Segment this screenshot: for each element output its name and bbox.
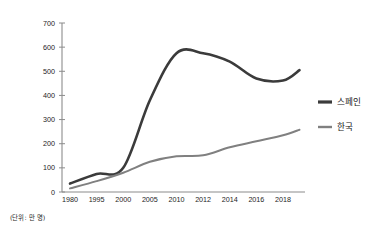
x-tick-label: 2012 <box>195 195 211 204</box>
x-tick-label: 1980 <box>62 195 78 204</box>
y-tick-label: 500 <box>43 67 55 76</box>
y-tick-label: 700 <box>43 19 55 28</box>
x-tick-label: 1995 <box>89 195 105 204</box>
y-tick-label: 600 <box>43 43 55 52</box>
x-axis: 198019952000200520102012201420162018 <box>62 192 305 204</box>
legend-label-korea: 한국 <box>337 122 353 132</box>
chart-container: 0100200300400500600700 19801995200020052… <box>0 0 385 234</box>
line-chart: 0100200300400500600700 19801995200020052… <box>0 0 385 234</box>
x-tick-label: 2005 <box>142 195 158 204</box>
x-tick-label: 2000 <box>115 195 131 204</box>
x-tick-label: 2018 <box>275 195 291 204</box>
y-tick-label: 100 <box>43 163 55 172</box>
x-tick-label: 2016 <box>248 195 264 204</box>
unit-note-label: (단위: 만 명) <box>10 213 45 222</box>
y-axis: 0100200300400500600700 <box>43 19 65 197</box>
y-tick-label: 400 <box>43 91 55 100</box>
series-line-spain <box>70 49 300 183</box>
x-tick-label: 2014 <box>222 195 238 204</box>
x-tick-label: 2010 <box>169 195 185 204</box>
series-line-korea <box>70 130 300 189</box>
y-tick-label: 0 <box>51 188 55 197</box>
y-tick-label: 200 <box>43 139 55 148</box>
legend-label-spain: 스페인 <box>337 97 361 107</box>
series-lines <box>70 49 300 188</box>
y-tick-label: 300 <box>43 115 55 124</box>
chart-legend: 스페인한국 <box>318 97 361 132</box>
